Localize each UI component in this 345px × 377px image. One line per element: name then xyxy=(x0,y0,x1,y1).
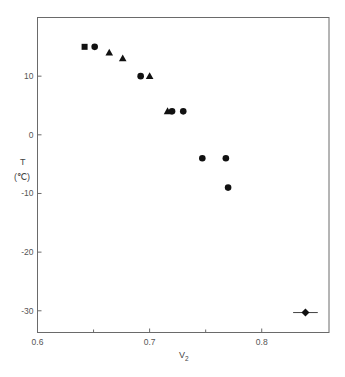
x-tick-label: 0.8 xyxy=(256,337,268,347)
y-tick-label: -30 xyxy=(21,306,34,316)
y-tick-label: -20 xyxy=(21,247,34,257)
y-axis-ticks: 100-10-20-30 xyxy=(21,71,41,316)
x-tick-label: 0.7 xyxy=(144,337,156,347)
y-tick-label: 10 xyxy=(24,71,34,81)
triangle-marker xyxy=(119,55,127,62)
triangle-marker xyxy=(146,72,154,79)
data-points xyxy=(82,44,318,317)
y-axis-label: T xyxy=(20,157,26,167)
circle-marker xyxy=(91,44,98,51)
circle-marker xyxy=(223,155,230,162)
circle-marker xyxy=(180,108,187,115)
plot-frame xyxy=(38,18,330,333)
circle-marker xyxy=(199,155,206,162)
square-marker xyxy=(82,44,88,50)
y-axis-unit: (℃) xyxy=(14,172,30,182)
circle-marker xyxy=(137,73,144,80)
y-tick-label: -10 xyxy=(21,188,34,198)
y-tick-label: 0 xyxy=(29,130,34,140)
x-tick-label: 0.6 xyxy=(32,337,44,347)
x-axis-ticks: 0.60.70.8 xyxy=(32,329,268,347)
circle-marker xyxy=(225,184,232,191)
scatter-chart: 0.60.70.8 100-10-20-30 V2 T (℃) xyxy=(0,0,345,377)
x-axis-label: V2 xyxy=(179,350,189,362)
triangle-marker xyxy=(105,49,113,56)
diamond-marker xyxy=(301,309,309,317)
